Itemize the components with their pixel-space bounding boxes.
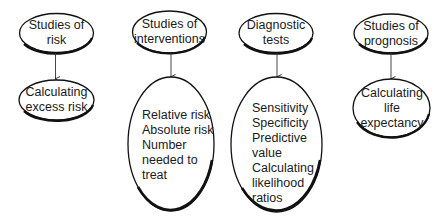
node-text-line: Number (142, 138, 214, 153)
node-calculating-excess-risk: Calculating excess risk (19, 81, 94, 119)
node-text-line: needed to (142, 153, 214, 168)
node-text-line: Diagnostic (247, 18, 305, 33)
node-text-line: interventions (134, 32, 205, 47)
node-text-line: likelihood (252, 176, 314, 191)
node-text-line: Predictive (252, 131, 314, 146)
node-calculating-life-expectancy: Calculating life expectancy (354, 83, 430, 133)
node-text-line: Calculating (360, 86, 423, 101)
node-text-line: tests (247, 33, 305, 48)
node-studies-of-risk: Studies of risk (20, 14, 93, 52)
node-text-line: Calculating (26, 85, 88, 100)
node-diagnostic-tests: Diagnostic tests (240, 14, 312, 52)
node-text-line: Absolute risk (142, 123, 214, 138)
node-diagnostic-measures: Sensitivity Specificity Predictive value… (252, 101, 322, 209)
node-text-line: expectancy (360, 116, 423, 131)
node-text-line: Calculating (252, 161, 314, 176)
node-text-line: excess risk (26, 100, 88, 115)
node-text-line: prognosis (363, 34, 419, 49)
node-studies-of-interventions: Studies of interventions (132, 12, 207, 52)
node-text-line: life (360, 101, 423, 116)
node-text-line: Relative risk (142, 108, 214, 123)
node-text-line: treat (142, 168, 214, 183)
node-text-line: Sensitivity (252, 101, 314, 116)
node-text-line: Studies of (134, 17, 205, 32)
node-studies-of-prognosis: Studies of prognosis (355, 14, 427, 53)
node-intervention-measures: Relative risk Absolute risk Number neede… (142, 108, 222, 184)
node-text-line: Studies of (29, 18, 85, 33)
node-text-line: risk (29, 33, 85, 48)
node-text-line: ratios (252, 191, 314, 206)
node-text-line: value (252, 146, 314, 161)
node-text-line: Specificity (252, 116, 314, 131)
node-text-line: Studies of (363, 19, 419, 34)
